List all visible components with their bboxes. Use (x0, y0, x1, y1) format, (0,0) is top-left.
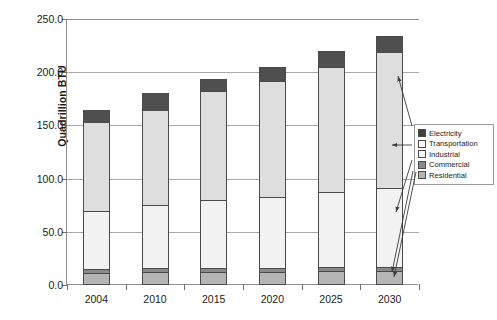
gridline (67, 179, 419, 180)
x-tick-mark (184, 284, 185, 290)
stacked-bar (259, 67, 286, 284)
bar-segment-industrial (318, 192, 345, 268)
bar-segment-electricity (318, 51, 345, 68)
legend-label: Electricity (429, 129, 462, 138)
chart-figure: Quadrillion BTU 0.050.0100.0150.0200.025… (0, 0, 497, 320)
legend-label: Residential (429, 171, 467, 180)
bar-segment-industrial (142, 205, 169, 269)
bar-segment-industrial (259, 197, 286, 269)
stacked-bar (318, 51, 345, 284)
y-tick-label: 150.0 (37, 119, 63, 131)
plot-area: 0.050.0100.0150.0200.0250.0 200420102015… (66, 19, 418, 285)
x-tick-label: 2010 (143, 293, 166, 305)
cropped-bottom-artifact: .. .. (0, 311, 497, 320)
legend-item-transportation[interactable]: Transportation (418, 139, 489, 150)
x-tick-mark (419, 284, 420, 290)
x-tick-label: 2004 (85, 293, 108, 305)
y-tick-label: 250.0 (37, 13, 63, 25)
bar-segment-residential (376, 271, 403, 285)
bar-segment-transportation (142, 110, 169, 206)
gridline (67, 125, 419, 126)
bar-segment-industrial (200, 200, 227, 269)
legend-label: Transportation (429, 139, 478, 148)
bar-segment-residential (259, 272, 286, 285)
bar-segment-electricity (259, 67, 286, 82)
x-tick-mark (243, 284, 244, 290)
gridline (67, 72, 419, 73)
y-tick-label: 50.0 (43, 226, 63, 238)
y-tick-label: 0.0 (48, 279, 63, 291)
bar-segment-electricity (142, 93, 169, 111)
x-tick-label: 2030 (378, 293, 401, 305)
legend-swatch-transportation (418, 140, 426, 148)
stacked-bar (83, 110, 110, 284)
chart-legend: ElectricityTransportationIndustrialComme… (414, 124, 494, 185)
bar-segment-electricity (376, 36, 403, 53)
x-tick-mark (360, 284, 361, 290)
gridline (67, 232, 419, 233)
legend-swatch-industrial (418, 150, 426, 158)
y-tick-label: 200.0 (37, 66, 63, 78)
y-tick-label: 100.0 (37, 173, 63, 185)
x-tick-mark (67, 284, 68, 290)
legend-label: Industrial (429, 150, 460, 159)
legend-item-commercial[interactable]: Commercial (418, 160, 489, 171)
bar-segment-residential (200, 272, 227, 285)
stacked-bar (200, 79, 227, 284)
legend-item-electricity[interactable]: Electricity (418, 128, 489, 139)
legend-swatch-commercial (418, 161, 426, 169)
x-tick-label: 2025 (319, 293, 342, 305)
stacked-bar (376, 36, 403, 284)
bar-segment-residential (318, 271, 345, 285)
stacked-bar (142, 93, 169, 284)
legend-swatch-residential (418, 171, 426, 179)
legend-label: Commercial (429, 160, 470, 169)
bar-segment-residential (142, 272, 169, 285)
bar-segment-transportation (83, 122, 110, 212)
bar-segment-transportation (318, 67, 345, 194)
bar-segment-industrial (376, 188, 403, 268)
legend-item-industrial[interactable]: Industrial (418, 149, 489, 160)
x-tick-label: 2020 (261, 293, 284, 305)
legend-swatch-electricity (418, 129, 426, 137)
bar-segment-transportation (200, 91, 227, 201)
legend-item-residential[interactable]: Residential (418, 170, 489, 181)
x-tick-mark (302, 284, 303, 290)
bar-segment-transportation (259, 81, 286, 198)
x-tick-label: 2015 (202, 293, 225, 305)
bar-segment-residential (83, 273, 110, 285)
plot-top-border (67, 19, 419, 20)
bar-segment-industrial (83, 211, 110, 270)
x-tick-mark (126, 284, 127, 290)
bar-segment-transportation (376, 52, 403, 189)
